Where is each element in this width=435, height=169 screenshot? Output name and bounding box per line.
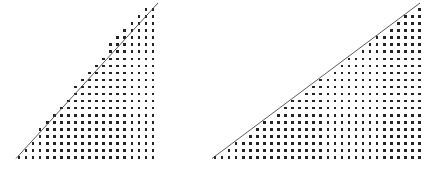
lattice-dot bbox=[235, 156, 238, 159]
lattice-dot bbox=[383, 128, 386, 131]
lattice-dot bbox=[362, 128, 365, 131]
lattice-dot bbox=[39, 149, 42, 152]
lattice-dot bbox=[369, 79, 372, 82]
lattice-dot bbox=[109, 72, 112, 75]
lattice-dot bbox=[138, 114, 141, 117]
lattice-dot bbox=[376, 58, 379, 61]
lattice-dot bbox=[383, 156, 386, 159]
lattice-dot bbox=[138, 93, 141, 96]
lattice-dot bbox=[369, 65, 372, 68]
lattice-dot bbox=[369, 86, 372, 89]
lattice-dot bbox=[256, 135, 259, 138]
lattice-dot bbox=[369, 58, 372, 61]
lattice-dot bbox=[312, 142, 315, 145]
lattice-dot bbox=[53, 135, 56, 138]
lattice-dot bbox=[138, 156, 141, 159]
lattice-dot bbox=[46, 128, 49, 131]
lattice-dot bbox=[131, 22, 134, 25]
lattice-dot bbox=[81, 149, 84, 152]
lattice-dot bbox=[341, 79, 344, 82]
lattice-dot bbox=[60, 156, 63, 159]
lattice-dot bbox=[25, 149, 28, 152]
right-triangle-svg bbox=[200, 0, 435, 169]
lattice-dot bbox=[348, 149, 351, 152]
lattice-dot bbox=[145, 121, 148, 124]
lattice-dot bbox=[390, 156, 393, 159]
lattice-dot bbox=[145, 100, 148, 103]
lattice-dot bbox=[376, 65, 379, 68]
lattice-dot bbox=[327, 156, 330, 159]
lattice-dot bbox=[362, 156, 365, 159]
lattice-dot bbox=[397, 65, 400, 68]
lattice-dot bbox=[411, 79, 414, 82]
lattice-dot bbox=[95, 100, 98, 103]
lattice-dot bbox=[341, 142, 344, 145]
lattice-dot bbox=[145, 114, 148, 117]
lattice-dot bbox=[270, 135, 273, 138]
lattice-dot bbox=[39, 156, 42, 159]
lattice-dot bbox=[411, 50, 414, 53]
lattice-dot bbox=[242, 149, 245, 152]
lattice-dot bbox=[60, 128, 63, 131]
lattice-dot bbox=[411, 149, 414, 152]
lattice-dot bbox=[123, 65, 126, 68]
lattice-dot bbox=[263, 142, 266, 145]
lattice-dot bbox=[362, 100, 365, 103]
lattice-dot bbox=[116, 142, 119, 145]
lattice-dot bbox=[312, 86, 315, 89]
lattice-dot bbox=[152, 15, 155, 18]
lattice-dot bbox=[355, 65, 358, 68]
lattice-dot bbox=[145, 8, 148, 11]
lattice-dot bbox=[362, 107, 365, 110]
lattice-dot bbox=[404, 142, 407, 145]
lattice-dot bbox=[411, 128, 414, 131]
lattice-dot bbox=[277, 128, 280, 131]
lattice-dot bbox=[404, 107, 407, 110]
lattice-dot bbox=[327, 107, 330, 110]
left-lattice-dots bbox=[18, 8, 155, 159]
lattice-dot bbox=[348, 58, 351, 61]
lattice-dot bbox=[348, 93, 351, 96]
lattice-dot bbox=[355, 58, 358, 61]
lattice-dot bbox=[334, 100, 337, 103]
lattice-dot bbox=[152, 43, 155, 46]
lattice-dot bbox=[369, 100, 372, 103]
lattice-dot bbox=[263, 149, 266, 152]
lattice-dot bbox=[369, 50, 372, 53]
lattice-dot bbox=[270, 149, 273, 152]
lattice-dot bbox=[312, 107, 315, 110]
lattice-dot bbox=[131, 100, 134, 103]
lattice-dot bbox=[116, 100, 119, 103]
lattice-dot bbox=[131, 50, 134, 53]
lattice-dot bbox=[355, 149, 358, 152]
lattice-dot bbox=[138, 149, 141, 152]
lattice-dot bbox=[341, 121, 344, 124]
lattice-dot bbox=[348, 114, 351, 117]
lattice-dot bbox=[102, 128, 105, 131]
lattice-dot bbox=[376, 135, 379, 138]
lattice-dot bbox=[319, 135, 322, 138]
lattice-dot bbox=[291, 114, 294, 117]
lattice-dot bbox=[298, 128, 301, 131]
lattice-dot bbox=[53, 142, 56, 145]
lattice-dot bbox=[397, 58, 400, 61]
lattice-dot bbox=[131, 58, 134, 61]
lattice-dot bbox=[284, 149, 287, 152]
lattice-dot bbox=[249, 142, 252, 145]
lattice-dot bbox=[348, 86, 351, 89]
lattice-dot bbox=[249, 156, 252, 159]
lattice-dot bbox=[145, 135, 148, 138]
lattice-dot bbox=[341, 114, 344, 117]
lattice-dot bbox=[397, 93, 400, 96]
lattice-dot bbox=[123, 86, 126, 89]
lattice-dot bbox=[95, 93, 98, 96]
lattice-dot bbox=[319, 107, 322, 110]
lattice-dot bbox=[319, 121, 322, 124]
lattice-dot bbox=[145, 93, 148, 96]
lattice-dot bbox=[418, 15, 421, 18]
right-lattice-dots bbox=[214, 8, 421, 159]
lattice-dot bbox=[109, 86, 112, 89]
lattice-dot bbox=[109, 100, 112, 103]
lattice-dot bbox=[390, 79, 393, 82]
lattice-dot bbox=[291, 121, 294, 124]
